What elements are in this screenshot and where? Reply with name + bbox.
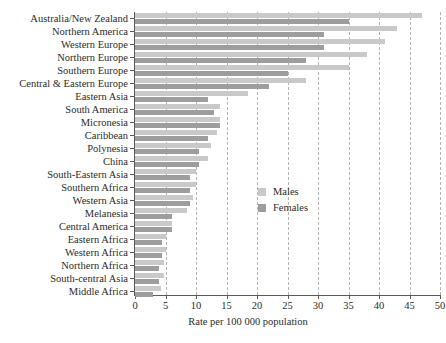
- legend-item-males: Males: [258, 186, 308, 197]
- bar-males: [135, 13, 422, 18]
- bar-females: [135, 19, 349, 24]
- bar-females: [135, 32, 324, 37]
- category-label: South-central Asia: [50, 272, 128, 285]
- category-row: South-central Asia: [0, 272, 446, 285]
- bar-females: [135, 240, 162, 245]
- bar-males: [135, 39, 385, 44]
- x-tick-label-15: 15: [214, 300, 240, 311]
- x-tick-label-5: 5: [153, 300, 179, 311]
- bar-males: [135, 91, 248, 96]
- legend-label-females: Females: [273, 202, 308, 213]
- bar-males: [135, 221, 172, 226]
- x-tick-label-25: 25: [275, 300, 301, 311]
- bar-females: [135, 201, 190, 206]
- bar-males: [135, 156, 208, 161]
- bar-males: [135, 26, 397, 31]
- category-row: Micronesia: [0, 116, 446, 129]
- bar-males: [135, 104, 220, 109]
- category-label: Southern Africa: [61, 181, 128, 194]
- bar-females: [135, 253, 162, 258]
- legend: Males Females: [258, 186, 308, 218]
- x-tick-label-50: 50: [427, 300, 446, 311]
- category-label: Northern Europe: [57, 51, 128, 64]
- category-label: Central America: [59, 220, 128, 233]
- bar-females: [135, 214, 172, 219]
- bar-males: [135, 52, 367, 57]
- category-row: Northern Africa: [0, 259, 446, 272]
- category-label: Western Africa: [65, 246, 128, 259]
- category-row: Middle Africa: [0, 285, 446, 298]
- bar-females: [135, 162, 199, 167]
- category-label: Australia/New Zealand: [30, 12, 128, 25]
- category-row: China: [0, 155, 446, 168]
- category-row: Western Europe: [0, 38, 446, 51]
- bar-females: [135, 292, 153, 297]
- category-label: South America: [65, 103, 128, 116]
- category-label: Central & Eastern Europe: [19, 77, 128, 90]
- bar-males: [135, 234, 166, 239]
- bar-females: [135, 175, 190, 180]
- category-label: Caribbean: [85, 129, 128, 142]
- bar-females: [135, 149, 199, 154]
- category-label: Southern Europe: [57, 64, 128, 77]
- category-label: Eastern Asia: [75, 90, 128, 103]
- bar-males: [135, 208, 187, 213]
- bar-chart: 05101520253035404550 Australia/New Zeala…: [0, 0, 446, 343]
- bar-males: [135, 195, 193, 200]
- bar-females: [135, 58, 306, 63]
- category-label: Eastern Africa: [68, 233, 128, 246]
- category-label: Middle Africa: [69, 285, 128, 298]
- x-tick-label-0: 0: [122, 300, 148, 311]
- x-tick-label-45: 45: [397, 300, 423, 311]
- category-row: Melanesia: [0, 207, 446, 220]
- bar-females: [135, 110, 214, 115]
- bar-males: [135, 286, 161, 291]
- bar-females: [135, 84, 269, 89]
- bar-males: [135, 65, 349, 70]
- category-label: Northern America: [52, 25, 128, 38]
- category-label: Polynesia: [87, 142, 128, 155]
- category-rows: Australia/New ZealandNorthern AmericaWes…: [0, 12, 446, 298]
- bar-males: [135, 182, 196, 187]
- bar-males: [135, 260, 164, 265]
- category-label: China: [103, 155, 128, 168]
- bar-females: [135, 136, 208, 141]
- category-row: Eastern Asia: [0, 90, 446, 103]
- bar-females: [135, 97, 208, 102]
- bar-females: [135, 45, 324, 50]
- x-tick-label-20: 20: [244, 300, 270, 311]
- x-tick-label-30: 30: [305, 300, 331, 311]
- bar-males: [135, 143, 211, 148]
- legend-label-males: Males: [273, 186, 299, 197]
- bar-females: [135, 188, 190, 193]
- category-row: Caribbean: [0, 129, 446, 142]
- category-label: Micronesia: [81, 116, 128, 129]
- category-row: South America: [0, 103, 446, 116]
- legend-item-females: Females: [258, 202, 308, 213]
- category-row: Polynesia: [0, 142, 446, 155]
- category-row: South-Eastern Asia: [0, 168, 446, 181]
- legend-swatch-females-icon: [258, 204, 266, 212]
- x-tick-label-35: 35: [336, 300, 362, 311]
- bar-males: [135, 247, 166, 252]
- x-tick-label-40: 40: [366, 300, 392, 311]
- bar-males: [135, 169, 196, 174]
- category-row: Eastern Africa: [0, 233, 446, 246]
- category-row: Central America: [0, 220, 446, 233]
- bar-females: [135, 71, 288, 76]
- category-label: Melanesia: [85, 207, 128, 220]
- x-axis-title: Rate per 100 000 population: [0, 316, 446, 327]
- category-row: Southern Europe: [0, 64, 446, 77]
- bar-females: [135, 279, 159, 284]
- category-label: South-Eastern Asia: [47, 168, 128, 181]
- category-label: Western Europe: [61, 38, 128, 51]
- category-label: Northern Africa: [61, 259, 128, 272]
- category-row: Southern Africa: [0, 181, 446, 194]
- category-row: Northern America: [0, 25, 446, 38]
- category-row: Western Africa: [0, 246, 446, 259]
- category-row: Western Asia: [0, 194, 446, 207]
- category-row: Australia/New Zealand: [0, 12, 446, 25]
- legend-swatch-males-icon: [258, 188, 266, 196]
- bar-females: [135, 266, 159, 271]
- bar-females: [135, 123, 220, 128]
